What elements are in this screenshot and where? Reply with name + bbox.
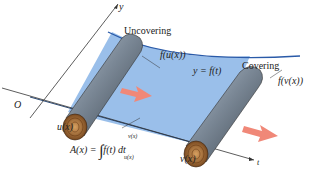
uncovering-label: Uncovering [124, 26, 171, 36]
integrand: f(t) dt [103, 144, 126, 155]
u-label: u(x) [57, 122, 73, 132]
upper-limit: v(x) [128, 133, 137, 139]
y-axis-label: y [119, 2, 123, 12]
covering-label: Covering [242, 61, 279, 71]
f-u-label: f(u(x)) [160, 50, 186, 60]
area-formula: A(x) = ∫v(x)u(x)f(t) dt [70, 139, 126, 157]
formula-lhs: A(x) = [70, 144, 99, 155]
lower-limit: u(x) [124, 154, 134, 160]
motion-arrow-2 [242, 125, 278, 142]
f-v-label: f(v(x)) [278, 76, 303, 86]
v-label: v(x) [180, 154, 196, 164]
curve-label: y = f(t) [193, 66, 221, 76]
integral-sign: ∫ [99, 142, 103, 159]
t-axis-label: t [257, 159, 259, 167]
origin-label: O [14, 100, 21, 110]
moving-region-diagram: y t O Uncovering Covering f(u(x)) f(v(x)… [0, 0, 309, 171]
